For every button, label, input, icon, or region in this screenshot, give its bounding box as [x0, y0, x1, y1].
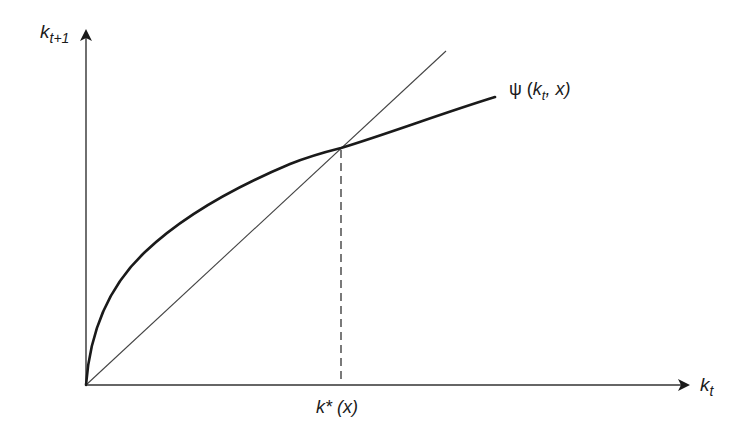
x-axis-label: kt	[700, 374, 715, 399]
steady-state-label: k* (x)	[316, 397, 358, 417]
y-axis-label: kt+1	[40, 21, 69, 46]
psi-curve	[86, 97, 495, 385]
phase-diagram: kt+1 kt ψ (kt, x) k* (x)	[0, 0, 752, 438]
psi-curve-label: ψ (kt, x)	[509, 79, 570, 103]
forty-five-degree-line	[86, 51, 446, 385]
